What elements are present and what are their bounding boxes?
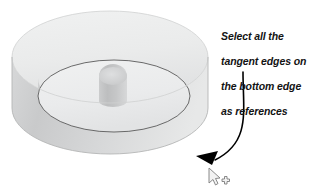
3d-part-graphic [0,0,240,196]
center-boss-top [99,67,127,85]
callout-line-2: tangent edges on [221,55,329,68]
callout-line-4: as references [221,105,329,118]
callout-line-1: Select all the [221,30,329,43]
callout-line-3: the bottom edge [221,80,329,93]
cad-instruction-figure: Select all the tangent edges on the bott… [0,0,333,196]
3d-model-viewport[interactable] [0,0,240,196]
callout-instruction-text: Select all the tangent edges on the bott… [221,17,329,130]
